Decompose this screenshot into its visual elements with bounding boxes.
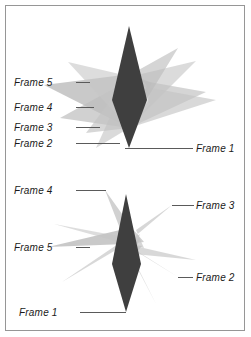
leader-line bbox=[76, 107, 94, 108]
leader-line bbox=[172, 205, 194, 206]
frame-label: Frame 4 bbox=[14, 185, 53, 196]
leader-line bbox=[178, 277, 193, 278]
leader-line bbox=[76, 143, 120, 144]
bottom-panel: Frame 4Frame 3Frame 5Frame 2Frame 1 bbox=[0, 168, 251, 337]
leader-line bbox=[76, 127, 100, 128]
frame-label: Frame 1 bbox=[196, 143, 235, 154]
frame-label: Frame 5 bbox=[14, 242, 53, 253]
frame-label: Frame 1 bbox=[19, 307, 58, 318]
leader-line bbox=[76, 247, 90, 248]
leader-line bbox=[76, 82, 90, 83]
frame-label: Frame 2 bbox=[196, 272, 235, 283]
top-panel: Frame 5Frame 4Frame 3Frame 2Frame 1 bbox=[0, 0, 251, 168]
frame-label: Frame 2 bbox=[14, 138, 53, 149]
leader-line bbox=[80, 312, 126, 313]
leader-line bbox=[76, 190, 106, 191]
frame-label: Frame 5 bbox=[14, 77, 53, 88]
frame-label: Frame 3 bbox=[196, 200, 235, 211]
frame-label: Frame 4 bbox=[14, 102, 53, 113]
diagram-figure: Frame 5Frame 4Frame 3Frame 2Frame 1 Fram… bbox=[0, 0, 251, 337]
frame-label: Frame 3 bbox=[14, 122, 53, 133]
leader-line bbox=[125, 148, 193, 149]
